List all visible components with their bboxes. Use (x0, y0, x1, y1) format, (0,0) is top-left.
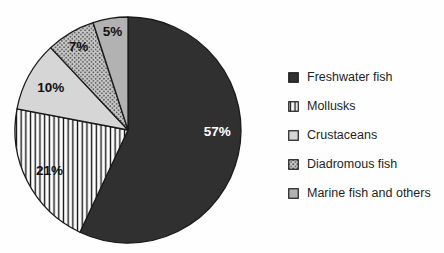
legend-item-crustaceans: Crustaceans (288, 127, 431, 143)
legend-item-diadromous-fish: Diadromous fish (288, 156, 431, 172)
legend-swatch-freshwater-fish-icon (288, 72, 299, 83)
pie-slice-value-mollusks: 21% (36, 163, 63, 178)
pie-slice-value-marine-fish-and-others: 5% (103, 24, 123, 39)
legend-swatch-diadromous-fish-icon (288, 159, 299, 170)
pie-slice-value-crustaceans: 10% (37, 80, 64, 95)
legend-label: Mollusks (307, 99, 356, 113)
legend-item-freshwater-fish: Freshwater fish (288, 69, 431, 85)
legend-label: Crustaceans (307, 128, 377, 142)
legend-label: Marine fish and others (307, 186, 431, 200)
legend-label: Freshwater fish (307, 70, 392, 84)
chart-canvas: 57%21%10%7%5% Freshwater fishMollusksCru… (0, 0, 444, 253)
pie-slice-value-diadromous-fish: 7% (69, 39, 89, 54)
legend-swatch-mollusks-icon (288, 101, 299, 112)
legend: Freshwater fishMollusksCrustaceansDiadro… (288, 69, 431, 201)
legend-item-marine-fish-and-others: Marine fish and others (288, 185, 431, 201)
legend-swatch-marine-fish-and-others-icon (288, 188, 299, 199)
pie-chart: 57%21%10%7%5% (0, 0, 270, 253)
legend-swatch-crustaceans-icon (288, 130, 299, 141)
legend-item-mollusks: Mollusks (288, 98, 431, 114)
pie-slice-value-freshwater-fish: 57% (204, 124, 231, 139)
legend-label: Diadromous fish (307, 157, 397, 171)
